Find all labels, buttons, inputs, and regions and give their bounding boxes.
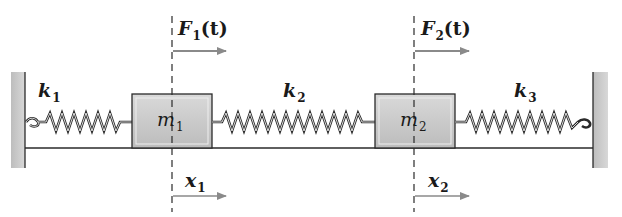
left-wall [11, 72, 25, 168]
mass-m1-label: m1 [157, 110, 184, 129]
spring-mass-diagram: k1 k2 k3 m1 m2 F1(t) F2(t) x1 x2 [0, 0, 622, 217]
force-f1-label: F1(t) [178, 19, 228, 38]
spring-k1 [26, 113, 132, 131]
spring-k1-label: k1 [38, 81, 61, 100]
force-f2-label: F2(t) [421, 19, 471, 38]
spring-k2 [212, 113, 375, 131]
spring-k3 [455, 113, 590, 131]
right-wall [593, 72, 608, 168]
mass-m2-label: m2 [400, 110, 427, 129]
diagram-graphics [0, 0, 622, 217]
displacement-x2-label: x2 [428, 171, 449, 190]
displacement-x1-label: x1 [185, 171, 206, 190]
spring-k2-label: k2 [283, 81, 306, 100]
spring-k3-label: k3 [514, 81, 537, 100]
